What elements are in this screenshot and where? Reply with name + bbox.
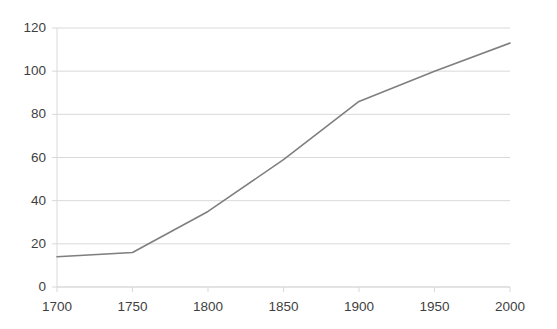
x-tick-label: 1750 [103, 299, 163, 314]
y-axis-ticks [52, 28, 57, 287]
series-line-0 [57, 43, 510, 257]
x-tick-label: 1950 [405, 299, 465, 314]
x-axis-ticks [57, 287, 510, 292]
x-tick-label: 1900 [329, 299, 389, 314]
y-tick-label: 80 [0, 106, 46, 121]
line-chart: 020406080100120 170017501800185019001950… [0, 0, 557, 329]
x-tick-label: 1850 [254, 299, 314, 314]
y-tick-label: 40 [0, 193, 46, 208]
x-tick-label: 1700 [27, 299, 87, 314]
data-series-group [57, 43, 510, 257]
y-tick-label: 100 [0, 63, 46, 78]
x-tick-label: 2000 [480, 299, 540, 314]
y-tick-label: 120 [0, 20, 46, 35]
x-tick-label: 1800 [178, 299, 238, 314]
horizontal-gridlines [57, 28, 510, 287]
y-tick-label: 20 [0, 236, 46, 251]
y-tick-label: 0 [0, 279, 46, 294]
plot-area [0, 0, 557, 329]
y-tick-label: 60 [0, 150, 46, 165]
